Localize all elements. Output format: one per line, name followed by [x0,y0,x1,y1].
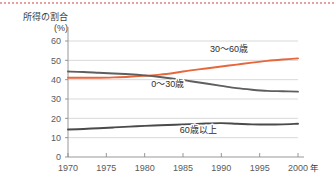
series-label: 0〜30歳 [151,78,184,89]
x-tick-label: 2000 [288,163,308,173]
x-tick-labels-group: 1970197519801985199019952000 [58,163,308,173]
y-tick-label: 50 [51,56,61,66]
y-tick-label: 60 [51,36,61,46]
y-tick-label: 40 [51,75,61,85]
x-tick-label: 1980 [135,163,155,173]
y-tick-label: 30 [51,94,61,104]
y-tick-label: 10 [51,133,61,143]
x-axis-unit-group: 年 [310,163,319,173]
x-tick-label: 1975 [96,163,116,173]
y-tick-labels-group: 0102030405060 [51,36,61,162]
x-axis-unit-label: 年 [310,163,319,173]
x-tick-label: 1990 [211,163,231,173]
series-paths-group [68,58,298,129]
x-tick-label: 1995 [250,163,270,173]
y-tick-label: 20 [51,114,61,124]
series-label: 30〜60歳 [210,43,248,54]
series-labels-group: 30〜60歳30〜60歳0〜30歳0〜30歳60歳以上60歳以上 [151,43,248,135]
series-label: 60歳以上 [180,124,217,135]
x-tick-label: 1985 [173,163,193,173]
y-axis-line-group [65,27,68,157]
series-line [68,58,298,77]
chart-figure: 所得の割合 (%) 0102030405060 1970197519801985… [0,0,336,183]
x-tick-label: 1970 [58,163,78,173]
y-tick-label: 0 [56,152,61,162]
line-chart-canvas: 0102030405060 19701975198019851990199520… [0,0,336,183]
x-tick-marks-group [68,153,298,157]
